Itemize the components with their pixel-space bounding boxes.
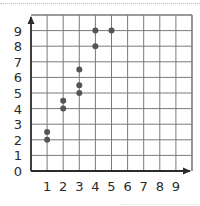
y-axis-arrow-icon (28, 16, 35, 24)
axes (28, 16, 192, 175)
y-tick-label: 1 (14, 148, 22, 163)
x-tick-label: 3 (75, 179, 83, 194)
x-tick-label: 6 (123, 179, 131, 194)
y-tick-label: 9 (14, 24, 22, 39)
data-point (92, 28, 98, 34)
data-point (76, 67, 82, 73)
x-tick-label: 8 (156, 179, 164, 194)
y-tick-label: 7 (14, 55, 22, 70)
scatter-plot: 123456789 0123456789 (0, 0, 200, 206)
y-axis-tick-labels: 0123456789 (14, 24, 22, 179)
x-tick-label: 2 (59, 179, 67, 194)
x-tick-label: 9 (172, 179, 180, 194)
y-tick-label: 2 (14, 133, 22, 148)
data-point (60, 106, 66, 112)
data-point (44, 129, 50, 135)
x-axis-tick-labels: 123456789 (43, 179, 180, 194)
x-tick-label: 4 (91, 179, 99, 194)
x-tick-label: 5 (107, 179, 115, 194)
data-point (92, 43, 98, 49)
y-tick-label: 0 (14, 164, 22, 179)
y-tick-label: 3 (14, 117, 22, 132)
data-point (44, 137, 50, 143)
y-tick-label: 4 (14, 102, 22, 117)
x-tick-label: 7 (140, 179, 148, 194)
data-point (60, 98, 66, 104)
data-point (76, 82, 82, 88)
data-point (109, 28, 115, 34)
y-tick-label: 8 (14, 39, 22, 54)
grid-lines (31, 15, 192, 171)
x-tick-label: 1 (43, 179, 51, 194)
y-tick-label: 6 (14, 70, 22, 85)
x-axis-arrow-icon (183, 168, 191, 175)
y-tick-label: 5 (14, 86, 22, 101)
data-point (76, 90, 82, 96)
